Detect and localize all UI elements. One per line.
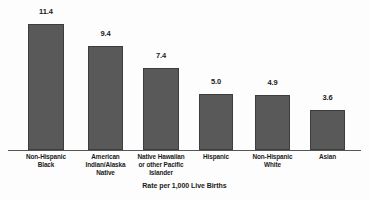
- bar-rect[interactable]: [143, 68, 179, 150]
- category-axis-labels: Non-Hispanic Black American Indian/Alask…: [0, 153, 369, 183]
- category-label-line: Asian: [294, 153, 361, 161]
- category-label-line: White: [236, 161, 309, 169]
- bar-rect[interactable]: [28, 24, 64, 150]
- bar-group: 11.4: [28, 0, 64, 151]
- bar-rect[interactable]: [310, 110, 345, 150]
- plot-area: 11.4 9.4 7.4 5.0 4.9 3.6: [0, 0, 369, 151]
- bar-chart: 11.4 9.4 7.4 5.0 4.9 3.6 Non-Hispanic: [0, 0, 369, 200]
- category-label-line: or other Pacific: [123, 161, 199, 169]
- bar-value-label: 4.9: [255, 78, 290, 87]
- bar-value-label: 5.0: [199, 77, 233, 86]
- bar-group: 5.0: [199, 0, 233, 151]
- bar-group: 3.6: [310, 0, 345, 151]
- bar-rect[interactable]: [199, 94, 233, 150]
- bar-group: 9.4: [88, 0, 123, 151]
- category-label-asian: Asian: [294, 153, 361, 161]
- bar-value-label: 7.4: [143, 51, 179, 60]
- category-label-line: Islander: [123, 169, 199, 177]
- bar-rect[interactable]: [88, 46, 123, 150]
- x-axis-title: Rate per 1,000 Live Births: [0, 182, 369, 189]
- bar-value-label: 3.6: [310, 93, 345, 102]
- bar-group: 7.4: [143, 0, 179, 151]
- bar-value-label: 11.4: [28, 7, 64, 16]
- bar-group: 4.9: [255, 0, 290, 151]
- x-axis-line: [8, 150, 361, 151]
- bar-value-label: 9.4: [88, 29, 123, 38]
- bar-rect[interactable]: [255, 95, 290, 150]
